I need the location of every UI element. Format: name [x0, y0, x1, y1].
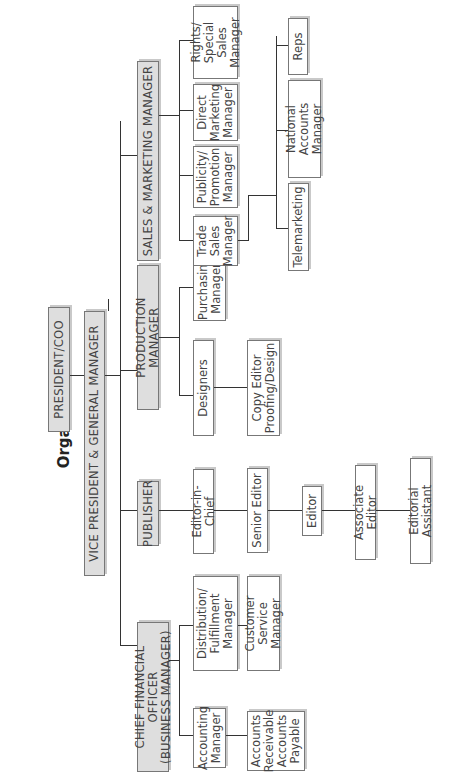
connector — [268, 510, 302, 511]
connector — [179, 287, 193, 288]
node-editorial-assistant: Editorial Assistant — [410, 458, 431, 564]
node-publicity-manager: Publicity/ Promotion Manager — [193, 146, 238, 208]
connector — [179, 240, 193, 241]
connector — [238, 240, 248, 241]
connector — [70, 375, 84, 376]
node-accounts: Accounts Receivable Accounts Payable — [247, 711, 305, 771]
node-trade-sales-manager: Trade Sales Manager — [193, 216, 238, 266]
connector — [179, 735, 193, 736]
node-direct-marketing-manager: Direct Marketing Manager — [193, 84, 238, 141]
connector — [179, 175, 193, 176]
connector — [179, 625, 193, 626]
connector — [179, 288, 180, 396]
connector — [276, 36, 277, 229]
node-senior-editor: Senior Editor — [247, 468, 268, 553]
node-rights-manager: Rights/ Special Sales Manager — [193, 6, 238, 79]
node-cfo: CHIEF FINANCIAL OFFICER (BUSINESS MANAGE… — [137, 622, 169, 772]
connector — [276, 45, 288, 46]
connector — [376, 510, 410, 511]
org-chart: Organization Chart PRESIDENT/COO VICE PR… — [0, 0, 453, 776]
connector — [159, 115, 179, 116]
node-designers: Designers — [193, 340, 214, 436]
connector — [179, 395, 193, 396]
connector — [169, 660, 179, 661]
connector — [159, 510, 193, 511]
node-reps: Reps — [288, 18, 308, 75]
connector — [105, 375, 120, 376]
connector — [179, 41, 180, 241]
node-editor-in-chief: Editor-in-Chief — [193, 469, 214, 554]
node-telemarketing: Telemarketing — [288, 183, 309, 271]
connector — [120, 121, 121, 646]
node-production: PRODUCTION MANAGER — [137, 265, 159, 410]
connector — [120, 510, 137, 511]
node-national-accounts-manager: National Accounts Manager — [288, 80, 321, 178]
connector — [179, 626, 180, 736]
node-editor: Editor — [302, 486, 322, 536]
connector — [179, 110, 193, 111]
node-customer-service: Customer Service Manager — [247, 576, 280, 671]
node-associate-editor: Associate Editor — [355, 465, 376, 560]
node-publisher: PUBLISHER — [137, 481, 159, 546]
node-distribution-manager: Distribution/ Fulfillment Manager — [193, 576, 238, 671]
connector — [276, 228, 288, 229]
node-vp: VICE PRESIDENT & GENERAL MANAGER — [84, 311, 105, 576]
connector — [120, 155, 137, 156]
connector — [248, 195, 276, 196]
connector — [322, 510, 355, 511]
node-copy-editor: Copy Editor Proofing/Design — [247, 340, 280, 436]
connector — [214, 387, 247, 388]
connector — [214, 510, 247, 511]
node-president: PRESIDENT/COO — [48, 307, 70, 432]
node-accounting-manager: Accounting Manager — [193, 708, 226, 768]
connector — [108, 299, 109, 311]
connector — [248, 196, 249, 241]
connector — [226, 735, 247, 736]
connector — [159, 337, 179, 338]
node-sales: SALES & MARKETING MANAGER — [137, 61, 159, 261]
